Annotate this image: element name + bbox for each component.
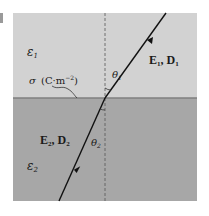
field-label-lower: E2, D2: [40, 133, 70, 148]
refraction-diagram: ε1 ε2 σ (C·m−2) E1, D1 E2, D2 θ1 θ2: [0, 0, 209, 216]
field-label-upper: E1, D1: [149, 53, 179, 68]
